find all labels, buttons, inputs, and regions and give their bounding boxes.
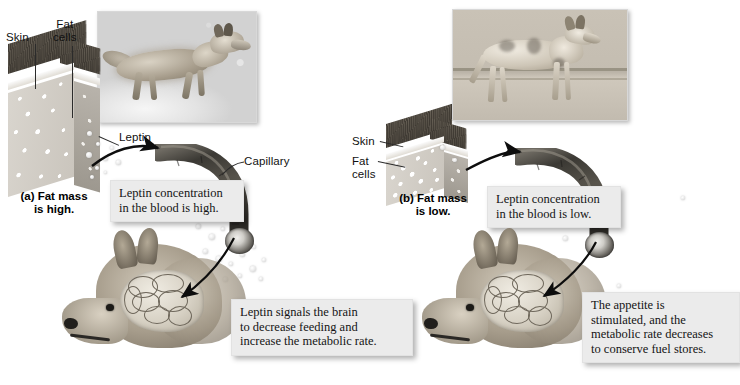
label-capillary-a: Capillary [244,155,290,168]
arrow-capillary-to-brain-a [182,238,234,297]
arrow-fat-to-capillary-a [92,146,158,166]
leader-capillary-a [222,162,244,175]
arrow-fat-to-capillary-b [466,152,520,170]
arrow-capillary-to-brain-b [544,242,596,296]
